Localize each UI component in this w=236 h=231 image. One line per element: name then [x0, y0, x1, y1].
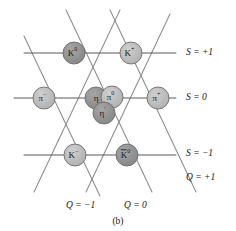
label-q-zero: Q = 0 — [124, 200, 147, 210]
label-q-minus-1: Q = −1 — [66, 200, 95, 210]
meson-node-k-minus[interactable]: K− — [64, 144, 86, 166]
meson-node-k-zero[interactable]: K0 — [63, 42, 85, 64]
meson-node-pi-minus[interactable]: π− — [33, 87, 55, 109]
label-s-minus-1: S = −1 — [186, 148, 213, 158]
meson-node-k-plus[interactable]: K+ — [120, 42, 142, 64]
node-circle — [33, 87, 55, 109]
meson-node-eta-prime[interactable]: η′ — [93, 102, 115, 124]
figure-caption: (b) — [112, 216, 123, 227]
node-superscript: 0 — [127, 149, 130, 155]
meson-nonet-figure: K0K+π−ηπ0η′π+K−K0 S = +1S = 0S = −1Q = +… — [0, 0, 236, 231]
label-q-plus-1: Q = +1 — [186, 172, 215, 182]
node-label-eta: η — [94, 93, 99, 103]
lattice-line-diag-a — [24, 36, 100, 196]
meson-nodes: K0K+π−ηπ0η′π+K−K0 — [33, 42, 169, 166]
label-s-zero: S = 0 — [186, 92, 207, 102]
node-circle — [147, 87, 169, 109]
node-superscript: 0 — [74, 47, 77, 53]
label-s-plus-1: S = +1 — [186, 47, 213, 57]
node-superscript: 0 — [111, 91, 114, 97]
weight-diagram-canvas: K0K+π−ηπ0η′π+K−K0 S = +1S = 0S = −1Q = +… — [0, 0, 236, 231]
meson-node-pi-plus[interactable]: π+ — [147, 87, 169, 109]
meson-node-k-zero-bar[interactable]: K0 — [116, 144, 138, 166]
